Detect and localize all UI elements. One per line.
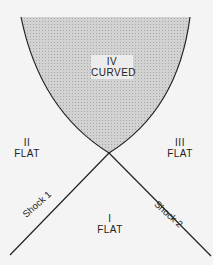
region-i-type: FLAT: [95, 224, 125, 235]
region-iii-label: III FLAT: [165, 137, 195, 159]
region-i-label: I FLAT: [95, 213, 125, 235]
region-iv-label: IV CURVED: [91, 55, 133, 79]
region-i-numeral: I: [95, 213, 125, 224]
curved-region-iv: [21, 17, 190, 153]
region-ii-label: II FLAT: [12, 137, 42, 159]
region-iv-type: CURVED: [91, 67, 133, 78]
region-iii-numeral: III: [165, 137, 195, 148]
region-iii-type: FLAT: [165, 148, 195, 159]
shock-1-line: [10, 153, 109, 255]
region-ii-numeral: II: [12, 137, 42, 148]
region-ii-type: FLAT: [12, 148, 42, 159]
region-iv-numeral: IV: [91, 56, 133, 67]
